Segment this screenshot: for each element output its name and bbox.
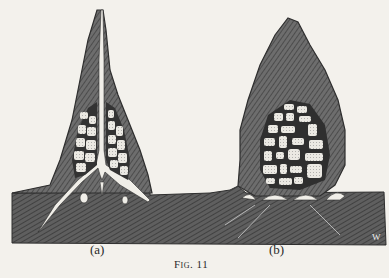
figure-caption: Fig. 11 xyxy=(174,258,208,270)
termite-mound-illustration: W xyxy=(0,0,389,278)
panel-label-a: (a) xyxy=(90,242,104,258)
artist-monogram: W xyxy=(372,232,381,242)
panel-label-b: (b) xyxy=(269,242,284,258)
